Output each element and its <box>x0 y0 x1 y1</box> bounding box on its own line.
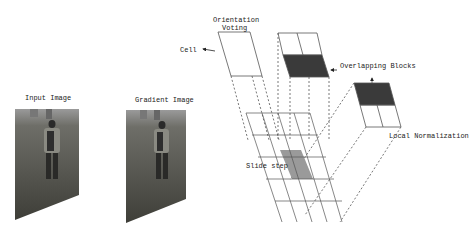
input-image-label: Input Image <box>25 94 71 102</box>
diagram-canvas <box>0 0 473 235</box>
overlapping-block-shape <box>278 33 329 140</box>
normalized-block-shape <box>290 78 401 222</box>
cell-shape <box>218 32 279 140</box>
cell-label: Cell <box>180 46 197 54</box>
local-normalization-label: Local Normalization <box>389 132 469 140</box>
slide-step-label: Slide step <box>246 162 288 170</box>
cell-arrow-icon <box>203 49 215 51</box>
overlapping-blocks-label: Overlapping Blocks <box>340 62 416 70</box>
gradient-image <box>126 110 186 223</box>
orientation-voting-label-2: Voting <box>222 24 247 32</box>
orientation-voting-label-1: Orientation <box>213 16 259 24</box>
gradient-image-label: Gradient Image <box>135 96 194 104</box>
input-image <box>15 109 79 220</box>
